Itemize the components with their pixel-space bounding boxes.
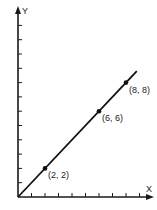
data-point	[43, 166, 48, 171]
series-line	[18, 71, 137, 197]
ticks	[18, 25, 140, 197]
axes	[15, 6, 154, 200]
y-axis-arrow-icon	[15, 6, 21, 14]
chart: (2, 2)(6, 6)(8, 8) X Y	[0, 0, 157, 210]
x-axis-label: X	[146, 184, 152, 194]
x-axis-arrow-icon	[146, 194, 154, 200]
y-axis-label: Y	[22, 6, 28, 16]
data-point	[97, 109, 102, 114]
data-label: (8, 8)	[129, 85, 150, 95]
data-label: (6, 6)	[102, 113, 123, 123]
series: (2, 2)(6, 6)(8, 8)	[18, 71, 150, 197]
data-point	[124, 80, 129, 85]
data-label: (2, 2)	[48, 170, 69, 180]
